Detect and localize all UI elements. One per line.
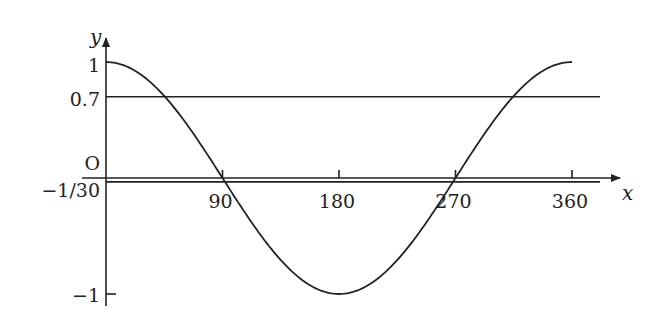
x-tick-label-180: 180: [319, 190, 355, 212]
y-tick-label: −1/30: [41, 179, 100, 201]
y-axis-label: y: [89, 25, 102, 49]
x-tick-label-270: 270: [435, 190, 471, 212]
y-tick-label: −1: [72, 284, 100, 306]
x-axis-label: x: [622, 181, 633, 205]
y-tick-label: 0.7: [70, 88, 100, 110]
axes: [82, 38, 620, 306]
y-tick-label: 1: [88, 54, 100, 76]
chart: 9018027036010.7−1/30−1Oxy: [0, 0, 659, 328]
ticks: [106, 170, 572, 294]
reference-lines: [106, 97, 600, 182]
origin-label: O: [84, 152, 100, 174]
x-tick-label-90: 90: [208, 190, 232, 212]
x-tick-label-360: 360: [552, 190, 588, 212]
